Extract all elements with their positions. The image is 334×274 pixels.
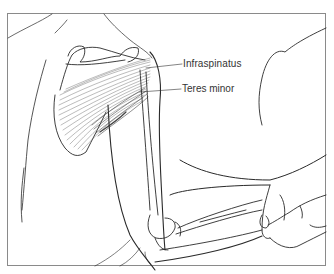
chest-fold [95, 240, 152, 266]
forearm-outline [155, 185, 270, 262]
forearm-outer-contour [180, 28, 326, 180]
infraspinatus-leader-line [146, 64, 182, 68]
infraspinatus-muscle [59, 58, 150, 150]
infraspinatus-label: Infraspinatus [183, 59, 242, 69]
examiner-hand [259, 28, 326, 248]
anatomical-figure: Infraspinatus Teres minor [0, 0, 334, 274]
teres-minor-label: Teres minor [182, 84, 234, 94]
upper-arm-outline [108, 52, 165, 270]
neck-outline [8, 14, 152, 58]
torso-outline [21, 60, 46, 222]
shoulder-arm-illustration [0, 0, 334, 274]
